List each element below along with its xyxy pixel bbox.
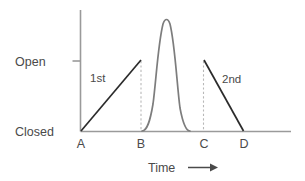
x-tick-label-c: C bbox=[199, 137, 208, 151]
series-line-first bbox=[81, 60, 141, 131]
time-arrow-head bbox=[210, 164, 218, 172]
x-axis-title: Time bbox=[148, 161, 175, 175]
y-tick-label-open: Open bbox=[15, 55, 46, 69]
series-curve-peak bbox=[142, 20, 190, 132]
y-tick-label-closed: Closed bbox=[15, 125, 54, 139]
x-tick-label-b: B bbox=[137, 137, 145, 151]
x-tick-label-a: A bbox=[77, 137, 86, 151]
annotation-second: 2nd bbox=[222, 73, 241, 85]
series-line-second bbox=[204, 60, 244, 131]
x-tick-label-d: D bbox=[239, 137, 248, 151]
series-group bbox=[81, 20, 244, 132]
x-axis-title-group: Time bbox=[148, 161, 218, 175]
diagram-canvas: Open Closed A B C D 1st 2nd Time bbox=[0, 0, 305, 181]
figure-container: Open Closed A B C D 1st 2nd Time bbox=[0, 0, 305, 181]
annotation-first: 1st bbox=[90, 72, 106, 84]
